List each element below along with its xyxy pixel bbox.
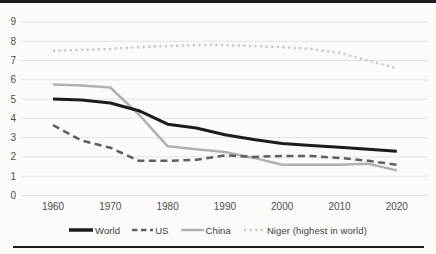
y-tick-label: 1 [10, 171, 16, 182]
x-tick-label: 2020 [386, 201, 409, 212]
chart-legend: World US China Niger (highest in world) [0, 222, 436, 238]
legend-item-us: US [132, 225, 168, 236]
world-line-swatch-icon [69, 227, 93, 233]
x-tick-label: 1970 [99, 201, 122, 212]
y-tick-label: 2 [10, 151, 16, 162]
legend-label-niger: Niger (highest in world) [267, 225, 367, 236]
niger-line-swatch-icon [243, 227, 265, 233]
y-tick-label: 4 [10, 113, 16, 124]
legend-label-world: World [95, 225, 120, 236]
series-line-world [53, 99, 397, 151]
y-tick-label: 9 [10, 16, 16, 27]
fertility-chart-card: 01234567891960197019801990200020102020 W… [0, 0, 436, 254]
x-tick-label: 1960 [42, 201, 65, 212]
legend-label-china: China [206, 225, 231, 236]
y-tick-label: 5 [10, 94, 16, 105]
series-line-niger [53, 45, 397, 68]
legend-label-us: US [155, 225, 168, 236]
y-tick-label: 7 [10, 55, 16, 66]
series-line-us [53, 125, 397, 165]
y-tick-label: 0 [10, 190, 16, 201]
card-bottom-rule [13, 246, 424, 248]
y-tick-label: 3 [10, 132, 16, 143]
x-tick-label: 1980 [156, 201, 179, 212]
legend-item-niger: Niger (highest in world) [243, 225, 367, 236]
y-tick-label: 8 [10, 36, 16, 47]
x-tick-label: 2000 [271, 201, 294, 212]
china-line-swatch-icon [181, 227, 204, 233]
x-tick-label: 2010 [328, 201, 351, 212]
x-tick-label: 1990 [214, 201, 237, 212]
legend-item-china: China [181, 225, 231, 236]
line-chart-plot-area: 01234567891960197019801990200020102020 [0, 0, 436, 216]
legend-item-world: World [69, 225, 120, 236]
us-line-swatch-icon [132, 227, 153, 233]
y-tick-label: 6 [10, 74, 16, 85]
